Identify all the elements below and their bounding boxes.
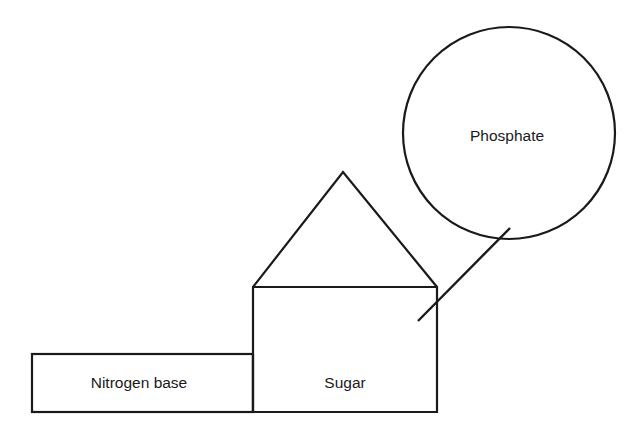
phosphate-label: Phosphate bbox=[470, 127, 544, 144]
sugar-label: Sugar bbox=[324, 374, 365, 391]
diagram-canvas: Nitrogen base Sugar Phosphate bbox=[0, 0, 641, 438]
phosphate-sugar-bond-line bbox=[418, 228, 510, 321]
nitrogen-base-label: Nitrogen base bbox=[91, 374, 188, 391]
nucleotide-diagram: Nitrogen base Sugar Phosphate bbox=[0, 0, 641, 438]
